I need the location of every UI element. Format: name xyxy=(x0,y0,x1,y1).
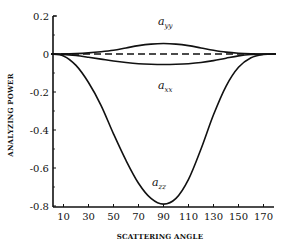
x-tick-label: 90 xyxy=(157,211,170,222)
curve-label-a-xx: axx xyxy=(158,79,173,94)
x-tick-label: 70 xyxy=(132,211,145,222)
x-tick-label: 30 xyxy=(82,211,95,222)
x-tick-label: 130 xyxy=(204,211,223,222)
x-tick-label: 150 xyxy=(229,211,248,222)
curves xyxy=(51,44,276,205)
x-tick-label: 10 xyxy=(57,211,70,222)
y-tick-label: -0.8 xyxy=(30,201,49,212)
x-tick-label: 170 xyxy=(254,211,273,222)
x-axis: 1030507090110130150170 xyxy=(53,204,274,222)
y-tick-label: -0.6 xyxy=(30,163,49,174)
y-tick-label: -0.4 xyxy=(30,125,49,136)
curve-label-a-zz: azz xyxy=(152,176,166,191)
y-tick-label: 0.2 xyxy=(33,11,49,22)
y-tick-label: -0.2 xyxy=(30,87,49,98)
x-tick-label: 110 xyxy=(179,211,198,222)
curve-labels: ayyaxxazz xyxy=(152,15,174,191)
curve-label-a-yy: ayy xyxy=(158,15,174,30)
x-tick-label: 50 xyxy=(107,211,120,222)
y-axis-title: ANALYZING POWER xyxy=(6,73,15,157)
curve-a-yy xyxy=(51,44,276,54)
y-tick-label: 0 xyxy=(43,49,49,60)
curve-a-zz xyxy=(51,54,276,204)
y-axis: 0.20-0.2-0.4-0.6-0.8 xyxy=(30,11,57,212)
chart-canvas: 0.20-0.2-0.4-0.6-0.8 1030507090110130150… xyxy=(0,0,291,249)
x-axis-title: SCATTERING ANGLE xyxy=(117,232,203,241)
